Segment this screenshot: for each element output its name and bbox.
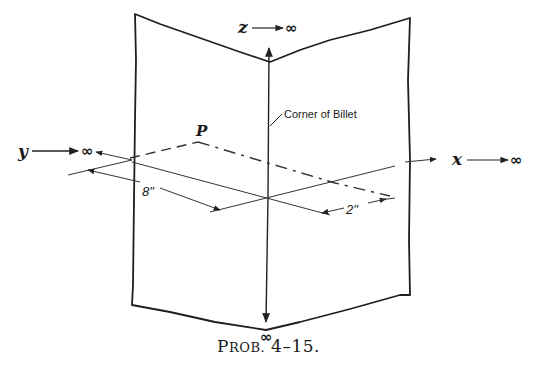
caption-smallcaps: ROB. [229,340,265,355]
caption-initial: P [217,336,229,356]
x-infinity: ∞ [510,151,523,169]
caption-number: 4–15. [265,336,320,356]
point-p-label: P [195,122,208,140]
dim-2-extension [380,198,395,200]
dim-8-arrow-right [160,188,220,210]
billet-outline [132,14,410,330]
x-axis-label: x [451,149,463,169]
dashed-line-left [130,142,198,158]
billet-corner-diagram: z ∞ ∞ Corner of Billet P y ∞ x ∞ 8" 2" [0,0,537,365]
z-axis-up [268,48,269,196]
corner-leader [270,114,282,126]
dashed-line-right [198,142,390,196]
figure-caption: PROB. 4–15. [0,336,537,356]
corner-annotation: Corner of Billet [284,108,357,120]
z-axis-down [266,196,268,322]
y-axis-arrow [96,152,132,160]
z-axis-label: z [237,17,248,37]
y-infinity: ∞ [81,142,94,160]
y-axis-label: y [17,141,29,161]
z-infinity: ∞ [285,19,298,37]
dim-2-label: 2" [345,202,359,217]
dim-8-label: 8" [142,184,155,199]
dim-8-arrow-left [88,170,140,182]
dim-2-arrow-left [322,208,344,213]
